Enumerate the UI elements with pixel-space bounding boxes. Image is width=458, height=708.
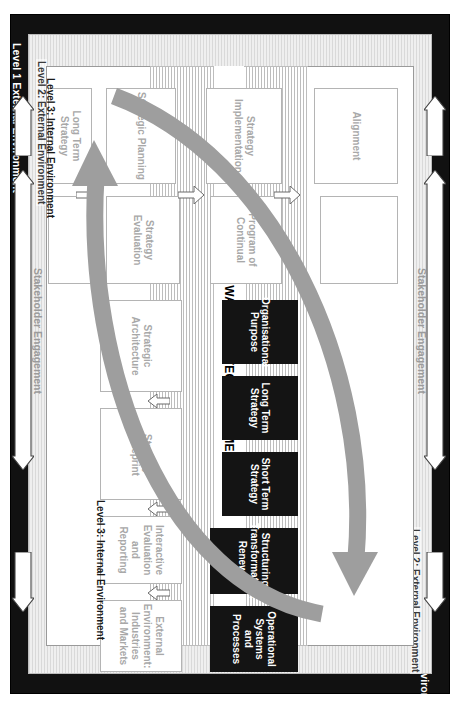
connector-arrow-right-1	[148, 394, 170, 408]
core-box-long-term-strategy[interactable]: Long Term Strategy	[222, 376, 298, 440]
process-box-label: Alignment	[350, 112, 362, 161]
process-box-alignment[interactable]: Alignment	[314, 88, 398, 184]
core-box-label: Operational Systems and Processes	[231, 609, 277, 669]
process-box-strategic-planning[interactable]: Strategic Planning	[106, 88, 176, 184]
connector-arrow-right-3	[148, 586, 170, 600]
connector-arrow-left-2	[178, 186, 204, 204]
level-2-inflow-arrow-bottom-left	[12, 96, 34, 156]
level-2-inflow-arrow-top-left	[424, 96, 446, 156]
core-box-short-term-strategy[interactable]: Short Term Strategy	[222, 452, 298, 516]
process-box-label: Strategy Implementation	[232, 92, 256, 180]
process-box-strategic-architecture[interactable]: Strategic Architecture	[100, 300, 182, 392]
connector-arrow-right-2	[148, 502, 170, 516]
process-box-label: Long Term Strategy	[58, 92, 82, 180]
process-box-strategy-evaluation[interactable]: Strategy Evaluation	[106, 196, 180, 284]
core-box-operational-systems-and-processes[interactable]: Operational Systems and Processes	[210, 606, 298, 672]
level-2-inflow-arrow-bottom-right	[12, 552, 34, 612]
process-box-label: Interactive Evaluation and Reporting	[117, 520, 164, 580]
process-box-external-environment-industries-and-markets[interactable]: External Environment: Industries and Mar…	[100, 600, 182, 672]
level-3-label-right: Level 3: Internal Environment	[95, 500, 106, 640]
core-box-structuring-transformation-renewal[interactable]: Structuring, Transformation, Renewal	[210, 528, 298, 594]
process-box-program-of-continual[interactable]: Program of Continual	[210, 196, 282, 284]
core-box-label: Long Term Strategy	[249, 379, 272, 437]
stakeholder-engagement-arrow-bottom	[12, 170, 34, 470]
level-2-inflow-arrow-top-right	[424, 552, 446, 612]
process-box-label: Strategic Architecture	[129, 304, 153, 388]
core-box-label: Short Term Strategy	[249, 455, 272, 513]
process-box-label: Strategy Blueprint	[129, 412, 153, 496]
stakeholder-engagement-label-top: Stakeholder Engagement	[416, 268, 428, 394]
process-box-label: Strategic Planning	[135, 92, 147, 180]
process-box-label: External Environment: Industries and Mar…	[117, 604, 164, 668]
process-box-strategy-implementation[interactable]: Strategy Implementation	[206, 88, 282, 184]
connector-arrow-left-1	[274, 186, 300, 204]
stakeholder-engagement-label-bottom: Stakeholder Engagement	[32, 268, 44, 394]
diagram-rotation-wrapper: Level 1 External Environment Level 1 Ext…	[0, 0, 458, 708]
diagram-canvas: Level 1 External Environment Level 1 Ext…	[0, 0, 458, 708]
process-box-strategy-blueprint[interactable]: Strategy Blueprint	[100, 408, 182, 500]
process-box-inner-left-1[interactable]	[320, 196, 398, 284]
level-3-label-left: Level 3: Internal Environment	[45, 78, 56, 218]
core-box-label: Organisational Purpose	[249, 297, 272, 367]
process-box-label: Strategy Evaluation	[131, 200, 155, 280]
process-box-label: Program of Continual	[234, 200, 258, 280]
process-box-interactive-evaluation-and-reporting[interactable]: Interactive Evaluation and Reporting	[100, 516, 182, 584]
core-box-organisational-purpose[interactable]: Organisational Purpose	[222, 300, 298, 364]
core-box-label: Structuring, Transformation, Renewal	[237, 523, 272, 599]
connector-arrow-left-3	[76, 186, 102, 204]
